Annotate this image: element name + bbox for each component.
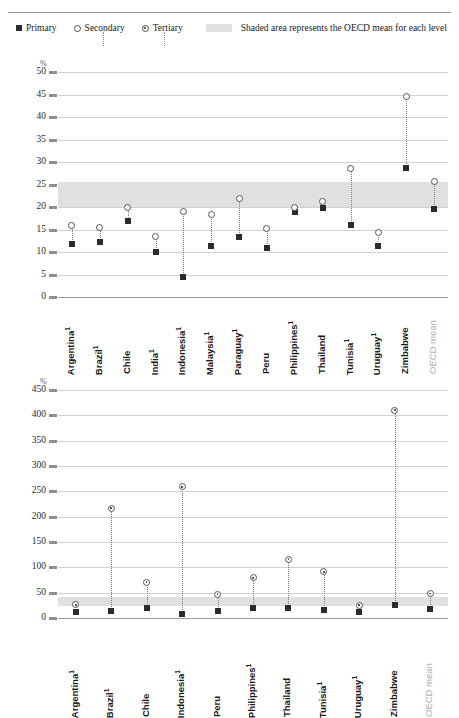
gridline [58,466,448,467]
y-axis-tick-mark [49,541,57,544]
data-point-tertiary[interactable] [320,568,327,575]
y-axis-tick-label: 300 [10,460,46,470]
x-axis-category-label: Tunisia1 [316,682,328,718]
data-point-tertiary[interactable] [214,591,221,598]
data-point-primary[interactable] [392,602,398,608]
x-axis-category-label: Brazil1 [103,689,115,718]
y-axis-tick-mark [49,414,57,417]
data-point-primary[interactable] [73,609,79,615]
data-point-primary[interactable] [144,605,150,611]
y-axis-tick-mark [49,592,57,595]
data-connector-stem [288,559,289,608]
x-axis-category-label: Indonesia1 [174,670,186,718]
y-axis-tick-mark [49,490,57,493]
data-point-tertiary[interactable] [72,601,79,608]
data-point-primary[interactable] [356,609,362,615]
gridline [58,415,448,416]
data-connector-stem [253,578,254,608]
y-axis-tick-mark [49,516,57,519]
gridline [58,491,448,492]
x-axis-category-label: Thailand [281,678,292,717]
x-axis-category-label: Philippines1 [245,664,257,718]
data-point-tertiary[interactable] [143,579,150,586]
y-axis-tick-label: 200 [10,511,46,521]
x-axis-line [58,618,448,619]
y-axis-tick-label: 400 [10,409,46,419]
data-point-primary[interactable] [285,605,291,611]
x-axis-category-label: Peru [211,696,222,717]
data-point-primary[interactable] [215,608,221,614]
data-point-tertiary[interactable] [391,407,398,414]
x-axis-category-label: Uruguay1 [351,676,363,718]
x-axis-category-label: Chile [140,694,151,717]
y-axis-tick-label: 100 [10,561,46,571]
y-axis-tick-mark [49,566,57,569]
data-point-tertiary[interactable] [179,483,186,490]
y-axis-tick-label: 50 [10,587,46,597]
x-axis-category-label: Zimbabwe [388,671,399,717]
y-axis-tick-mark [49,440,57,443]
data-point-primary[interactable] [321,607,327,613]
data-point-tertiary[interactable] [427,590,434,597]
gridline [58,542,448,543]
gridline [58,390,448,391]
data-connector-stem [324,572,325,610]
data-connector-stem [395,410,396,604]
data-point-primary[interactable] [108,608,114,614]
gridline [58,441,448,442]
y-axis-tick-label: 450 [10,384,46,394]
y-axis-tick-label: 150 [10,536,46,546]
gridline [58,517,448,518]
data-point-tertiary[interactable] [356,602,363,609]
gridline [58,567,448,568]
y-axis-tick-mark [49,617,57,620]
y-axis-tick-mark [49,465,57,468]
data-point-tertiary[interactable] [285,556,292,563]
x-axis-category-label: Argentina1 [68,670,80,718]
data-point-tertiary[interactable] [108,505,115,512]
data-connector-stem [182,487,183,614]
y-axis-tick-mark [49,389,57,392]
x-axis-category-label: OECD mean [423,663,434,717]
data-point-tertiary[interactable] [250,574,257,581]
y-axis-tick-label: 350 [10,435,46,445]
y-axis-tick-label: 250 [10,485,46,495]
data-point-primary[interactable] [427,606,433,612]
data-connector-stem [111,508,112,611]
data-point-primary[interactable] [250,605,256,611]
data-point-primary[interactable] [179,611,185,617]
y-axis-tick-label: 0 [10,612,46,622]
